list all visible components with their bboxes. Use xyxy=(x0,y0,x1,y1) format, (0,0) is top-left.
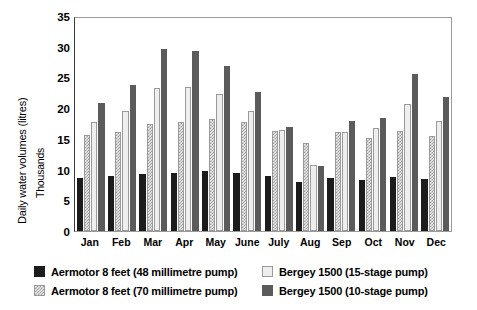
legend-label: Aermotor 8 feet (70 millimetre pump) xyxy=(51,285,238,297)
legend-swatch-icon xyxy=(34,266,45,277)
bar xyxy=(77,178,83,231)
bar xyxy=(310,165,316,231)
y-tick-label: 30 xyxy=(57,42,70,54)
bar xyxy=(397,131,403,231)
x-tick-label: Feb xyxy=(106,236,138,252)
bar xyxy=(272,131,278,231)
bar xyxy=(318,166,324,231)
bar xyxy=(192,51,198,231)
bar xyxy=(248,111,254,231)
bar xyxy=(373,128,379,231)
bar xyxy=(115,132,121,232)
bar xyxy=(296,182,302,231)
x-tick-label: July xyxy=(263,236,295,252)
legend-item: Aermotor 8 feet (48 millimetre pump) xyxy=(34,266,262,278)
y-tick-label: 20 xyxy=(57,103,70,115)
bar xyxy=(108,176,114,231)
y-tick-label: 35 xyxy=(57,11,70,23)
x-tick-label: Sep xyxy=(326,236,358,252)
x-tick-label: Oct xyxy=(358,236,390,252)
bar xyxy=(98,103,104,231)
legend-label: Aermotor 8 feet (48 millimetre pump) xyxy=(51,266,238,278)
bar xyxy=(216,94,222,231)
bar xyxy=(265,176,271,231)
legend-swatch-icon xyxy=(34,285,45,296)
bar-group xyxy=(138,18,169,231)
bar-group xyxy=(232,18,263,231)
bar xyxy=(412,74,418,231)
bar-group xyxy=(294,18,325,231)
y-tick-label: 0 xyxy=(64,226,70,238)
bar-group xyxy=(75,18,106,231)
bar xyxy=(171,173,177,231)
bar xyxy=(130,85,136,231)
x-tick-label: Jan xyxy=(74,236,106,252)
bar xyxy=(241,122,247,231)
plot-area xyxy=(74,17,452,232)
bar xyxy=(161,49,167,231)
legend-label: Bergey 1500 (15-stage pump) xyxy=(279,266,428,278)
bar xyxy=(436,121,442,231)
bar xyxy=(443,97,449,231)
x-tick-label: Nov xyxy=(389,236,421,252)
bar-group xyxy=(169,18,200,231)
bar xyxy=(91,122,97,231)
bar xyxy=(335,132,341,231)
legend-swatch-icon xyxy=(262,266,273,277)
bar-groups xyxy=(75,18,451,231)
bar xyxy=(84,135,90,231)
bar xyxy=(286,127,292,231)
bar xyxy=(404,104,410,231)
bar xyxy=(390,177,396,231)
bar-group xyxy=(200,18,231,231)
y-axis-title: Daily water volumes (litres) xyxy=(16,98,28,224)
legend-item: Aermotor 8 feet (70 millimetre pump) xyxy=(34,285,262,297)
bar xyxy=(224,66,230,231)
bar xyxy=(342,132,348,232)
bar xyxy=(429,136,435,231)
bar xyxy=(154,88,160,231)
bar-group xyxy=(106,18,137,231)
bar xyxy=(366,138,372,231)
x-tick-label: Dec xyxy=(421,236,453,252)
x-tick-label: Apr xyxy=(169,236,201,252)
y-axis-title-group: Daily water volumes (litres) Thousands xyxy=(0,12,46,237)
y-tick-label: 25 xyxy=(57,72,70,84)
bar xyxy=(359,180,365,231)
bar xyxy=(147,124,153,232)
x-tick-label: June xyxy=(232,236,264,252)
chart-legend: Aermotor 8 feet (48 millimetre pump)Berg… xyxy=(34,262,454,302)
legend-item: Bergey 1500 (15-stage pump) xyxy=(262,266,462,278)
y-axis-tick-labels: 05101520253035 xyxy=(44,17,74,232)
bar-group xyxy=(357,18,388,231)
bar xyxy=(178,122,184,231)
bar xyxy=(139,174,145,231)
bar xyxy=(209,119,215,231)
x-tick-label: May xyxy=(200,236,232,252)
bar xyxy=(202,171,208,231)
x-tick-label: Mar xyxy=(137,236,169,252)
y-tick-label: 10 xyxy=(57,165,70,177)
bar xyxy=(303,143,309,231)
y-tick-label: 15 xyxy=(57,134,70,146)
legend-item: Bergey 1500 (10-stage pump) xyxy=(262,285,462,297)
chart-container: Daily water volumes (litres) Thousands 0… xyxy=(0,0,477,310)
bar xyxy=(233,173,239,231)
bar-group xyxy=(388,18,419,231)
bar xyxy=(255,92,261,231)
bar xyxy=(327,178,333,231)
bar xyxy=(380,118,386,231)
y-tick-label: 5 xyxy=(64,195,70,207)
x-tick-label: Aug xyxy=(295,236,327,252)
bar xyxy=(185,87,191,231)
bar-group xyxy=(420,18,451,231)
bar-group xyxy=(326,18,357,231)
bar xyxy=(421,179,427,231)
bar xyxy=(279,130,285,231)
x-axis-tick-labels: JanFebMarAprMayJuneJulyAugSepOctNovDec xyxy=(74,236,452,252)
bar xyxy=(349,121,355,231)
legend-label: Bergey 1500 (10-stage pump) xyxy=(279,285,428,297)
bar-group xyxy=(263,18,294,231)
bar xyxy=(122,111,128,231)
legend-swatch-icon xyxy=(262,285,273,296)
